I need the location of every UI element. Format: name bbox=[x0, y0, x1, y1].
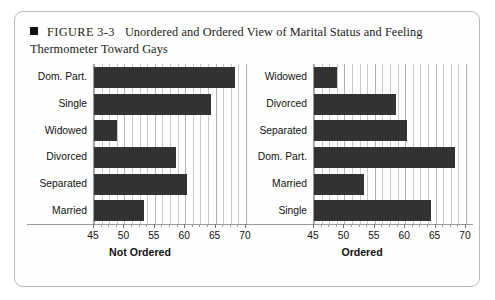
x-axis-tick bbox=[442, 224, 443, 227]
gridline bbox=[451, 64, 452, 224]
category-axis-left: Dom. Part.SingleWidowedDivorcedSeparated… bbox=[27, 64, 93, 224]
x-tick-label: 50 bbox=[118, 230, 129, 241]
x-axis-tick bbox=[419, 224, 420, 227]
x-axis-tick bbox=[161, 224, 162, 227]
x-tick-label: 60 bbox=[179, 230, 190, 241]
gridline bbox=[443, 64, 444, 224]
bar bbox=[94, 174, 187, 195]
gridline bbox=[147, 64, 148, 224]
chart-panel-not-ordered: Dom. Part.SingleWidowedDivorcedSeparated… bbox=[27, 64, 253, 276]
x-axis-tick bbox=[93, 224, 94, 228]
x-axis-tick bbox=[192, 224, 193, 227]
x-axis-tick bbox=[207, 224, 208, 227]
bar bbox=[94, 200, 144, 221]
x-axis-tick bbox=[215, 224, 216, 228]
figure-number: FIGURE 3-3 bbox=[47, 25, 115, 39]
x-axis-title-right: Ordered bbox=[251, 246, 473, 258]
figure-card: FIGURE 3-3Unordered and Ordered View of … bbox=[14, 11, 480, 287]
x-axis-tick bbox=[427, 224, 428, 227]
gridline bbox=[162, 64, 163, 224]
gridline bbox=[185, 64, 186, 224]
gridline bbox=[436, 64, 437, 224]
x-axis-tick bbox=[245, 224, 246, 228]
x-axis-tick bbox=[222, 224, 223, 227]
x-tick-label: 50 bbox=[338, 230, 349, 241]
category-label: Dom. Part. bbox=[38, 70, 87, 84]
x-axis-title-left: Not Ordered bbox=[27, 246, 253, 258]
x-axis-line-left bbox=[27, 224, 253, 225]
x-axis-tick bbox=[359, 224, 360, 227]
x-tick-label: 65 bbox=[429, 230, 440, 241]
x-axis-tick bbox=[313, 224, 314, 228]
x-axis-tick bbox=[389, 224, 390, 227]
x-axis-tick bbox=[101, 224, 102, 227]
category-label: Single bbox=[278, 204, 307, 218]
x-axis-tick bbox=[397, 224, 398, 227]
x-tick-label: 55 bbox=[148, 230, 159, 241]
x-axis-tick bbox=[108, 224, 109, 227]
x-axis-tick bbox=[199, 224, 200, 227]
plot-area-left bbox=[93, 64, 245, 224]
x-axis-tick bbox=[343, 224, 344, 228]
bar bbox=[314, 200, 431, 221]
gridline bbox=[193, 64, 194, 224]
x-axis-tick bbox=[184, 224, 185, 228]
category-label: Married bbox=[272, 177, 307, 191]
x-axis-tick bbox=[123, 224, 124, 228]
category-label: Widowed bbox=[45, 124, 87, 138]
category-label: Married bbox=[52, 204, 87, 218]
x-axis-line-right bbox=[251, 224, 473, 225]
category-label: Separated bbox=[39, 177, 87, 191]
x-axis-tick bbox=[336, 224, 337, 227]
gridline bbox=[170, 64, 171, 224]
x-axis-tick bbox=[237, 224, 238, 227]
x-axis-tick bbox=[146, 224, 147, 227]
x-tick-label: 45 bbox=[307, 230, 318, 241]
figure-caption: FIGURE 3-3Unordered and Ordered View of … bbox=[30, 24, 462, 58]
x-tick-label: 55 bbox=[368, 230, 379, 241]
x-axis-tick bbox=[351, 224, 352, 227]
category-label: Widowed bbox=[265, 70, 307, 84]
x-axis-tick bbox=[154, 224, 155, 228]
x-axis-tick bbox=[328, 224, 329, 227]
x-axis-tick bbox=[381, 224, 382, 227]
gridline bbox=[208, 64, 209, 224]
x-axis-tick bbox=[169, 224, 170, 227]
x-axis-tick bbox=[366, 224, 367, 227]
bar bbox=[314, 120, 407, 141]
gridline bbox=[200, 64, 201, 224]
gridline bbox=[178, 64, 179, 224]
category-label: Dom. Part. bbox=[258, 150, 307, 164]
bar bbox=[94, 67, 235, 88]
x-axis-tick bbox=[116, 224, 117, 227]
bar bbox=[314, 67, 337, 88]
category-label: Divorced bbox=[46, 150, 87, 164]
gridline bbox=[238, 64, 239, 224]
x-axis-tick bbox=[177, 224, 178, 227]
x-tick-label: 65 bbox=[209, 230, 220, 241]
gridline bbox=[458, 64, 459, 224]
x-tick-label: 45 bbox=[87, 230, 98, 241]
gridline bbox=[466, 64, 467, 224]
category-label: Separated bbox=[259, 124, 307, 138]
plot-area-right bbox=[313, 64, 465, 224]
bar bbox=[94, 120, 117, 141]
bar bbox=[314, 147, 455, 168]
gridline bbox=[246, 64, 247, 224]
gridline bbox=[155, 64, 156, 224]
x-axis-tick bbox=[457, 224, 458, 227]
chart-panel-ordered: WidowedDivorcedSeparatedDom. Part.Marrie… bbox=[251, 64, 473, 276]
bar bbox=[94, 147, 176, 168]
x-axis-tick bbox=[412, 224, 413, 227]
x-axis-tick bbox=[131, 224, 132, 227]
x-axis-tick bbox=[450, 224, 451, 227]
gridline bbox=[223, 64, 224, 224]
gridline bbox=[216, 64, 217, 224]
category-label: Single bbox=[58, 97, 87, 111]
x-axis-tick bbox=[404, 224, 405, 228]
x-tick-label: 60 bbox=[399, 230, 410, 241]
bar bbox=[94, 94, 211, 115]
category-axis-right: WidowedDivorcedSeparatedDom. Part.Marrie… bbox=[251, 64, 313, 224]
x-tick-label: 70 bbox=[239, 230, 250, 241]
bar bbox=[314, 174, 364, 195]
